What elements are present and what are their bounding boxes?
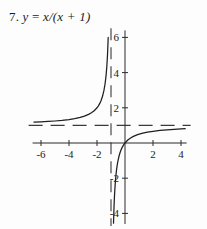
curve-left-branch — [34, 37, 108, 122]
y-tick-label: -4 — [110, 207, 120, 219]
x-tick-label: -2 — [92, 148, 101, 160]
y-tick-label: 4 — [114, 67, 120, 79]
function-graph: -6-4-224642-2-4 — [0, 0, 207, 229]
x-tick-label: 4 — [178, 148, 184, 160]
x-tick-label: 2 — [150, 148, 156, 160]
plot-area: -6-4-224642-2-4 — [29, 28, 191, 226]
y-tick-label: 6 — [114, 31, 120, 43]
x-tick-label: -4 — [64, 148, 74, 160]
y-tick-label: 2 — [114, 102, 120, 114]
y-tick-label: -2 — [110, 172, 119, 184]
x-tick-label: -6 — [36, 148, 46, 160]
